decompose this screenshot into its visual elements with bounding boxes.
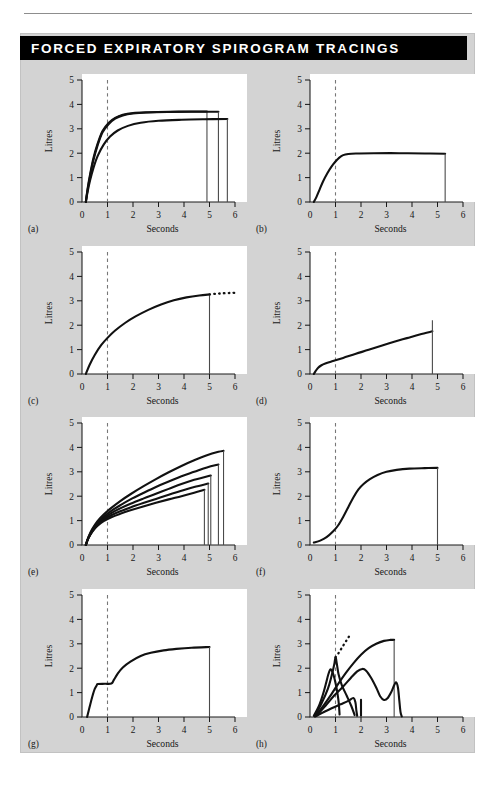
x-tick-label: 0: [80, 553, 85, 563]
x-tick-label: 6: [460, 553, 465, 563]
y-tick-label: 1: [69, 688, 74, 698]
y-tick-label: 5: [297, 418, 302, 428]
spirogram-panel-grid: 0123450123456LitresSeconds(a)01234501234…: [20, 66, 475, 752]
plot-background: [82, 246, 247, 374]
y-tick-label: 0: [297, 540, 302, 550]
x-tick-label: 3: [384, 382, 389, 392]
panel-letter: (c): [28, 396, 38, 407]
y-tick-label: 3: [297, 639, 302, 649]
y-axis-title: Litres: [271, 473, 282, 496]
y-axis-title: Litres: [43, 644, 54, 667]
y-tick-label: 1: [69, 516, 74, 526]
plot-background: [82, 417, 247, 545]
y-tick-label: 2: [297, 320, 302, 330]
x-tick-label: 4: [182, 210, 187, 220]
x-tick-label: 4: [409, 553, 414, 563]
x-tick-label: 4: [182, 553, 187, 563]
y-tick-label: 4: [69, 614, 74, 624]
spirogram-panel-b: 0123450123456LitresSeconds(b): [248, 66, 476, 238]
y-tick-label: 5: [69, 590, 74, 600]
x-tick-label: 2: [358, 725, 363, 735]
x-tick-label: 1: [105, 553, 110, 563]
y-tick-label: 2: [69, 320, 74, 330]
x-tick-label: 6: [233, 553, 238, 563]
y-tick-label: 3: [69, 124, 74, 134]
x-tick-label: 4: [409, 382, 414, 392]
x-tick-label: 0: [80, 210, 85, 220]
y-axis-title: Litres: [271, 301, 282, 324]
x-tick-label: 0: [307, 382, 312, 392]
x-tick-label: 2: [131, 210, 136, 220]
x-axis-title: Seconds: [374, 395, 406, 406]
plot-background: [310, 589, 475, 717]
x-tick-label: 0: [307, 553, 312, 563]
y-tick-label: 3: [297, 296, 302, 306]
x-tick-label: 1: [333, 382, 338, 392]
y-tick-label: 0: [297, 197, 302, 207]
x-axis-title: Seconds: [147, 223, 179, 234]
x-tick-label: 6: [233, 382, 238, 392]
spirogram-panel-c: 0123450123456LitresSeconds(c): [20, 238, 248, 410]
x-tick-label: 2: [131, 725, 136, 735]
spirogram-panel-g: 0123450123456LitresSeconds(g): [20, 581, 248, 753]
x-tick-label: 3: [156, 553, 161, 563]
x-axis-title: Seconds: [147, 566, 179, 577]
x-tick-label: 5: [207, 553, 212, 563]
y-axis-title: Litres: [43, 130, 54, 153]
y-tick-label: 2: [69, 149, 74, 159]
y-tick-label: 1: [297, 688, 302, 698]
panel-letter: (d): [256, 396, 267, 407]
y-tick-label: 1: [69, 345, 74, 355]
spirogram-panel-f: 0123450123456LitresSeconds(f): [248, 409, 476, 581]
x-tick-label: 4: [182, 382, 187, 392]
spirogram-panel-h: 0123450123456LitresSeconds(h): [248, 581, 476, 753]
x-tick-label: 5: [435, 210, 440, 220]
x-tick-label: 0: [80, 382, 85, 392]
x-tick-label: 4: [409, 210, 414, 220]
x-tick-label: 2: [131, 382, 136, 392]
x-tick-label: 3: [384, 210, 389, 220]
y-tick-label: 1: [297, 173, 302, 183]
panel-letter: (b): [256, 224, 267, 235]
x-tick-label: 3: [156, 382, 161, 392]
page-top-rule: [24, 13, 472, 14]
page-title: FORCED EXPIRATORY SPIROGRAM TRACINGS: [31, 41, 400, 56]
x-tick-label: 6: [460, 210, 465, 220]
y-tick-label: 2: [69, 663, 74, 673]
x-tick-label: 4: [182, 725, 187, 735]
y-tick-label: 0: [297, 712, 302, 722]
x-tick-label: 4: [409, 725, 414, 735]
x-tick-label: 1: [105, 725, 110, 735]
x-axis-title: Seconds: [147, 395, 179, 406]
plot-background: [310, 417, 475, 545]
x-tick-label: 1: [105, 210, 110, 220]
x-tick-label: 5: [435, 553, 440, 563]
x-tick-label: 2: [358, 382, 363, 392]
x-axis-title: Seconds: [374, 738, 406, 749]
y-tick-label: 3: [69, 639, 74, 649]
x-tick-label: 5: [207, 210, 212, 220]
x-tick-label: 1: [333, 210, 338, 220]
x-tick-label: 2: [358, 553, 363, 563]
y-tick-label: 4: [297, 271, 302, 281]
x-tick-label: 5: [435, 382, 440, 392]
x-tick-label: 3: [156, 210, 161, 220]
y-tick-label: 5: [69, 75, 74, 85]
figure-title-banner: FORCED EXPIRATORY SPIROGRAM TRACINGS: [20, 36, 467, 60]
x-tick-label: 6: [460, 725, 465, 735]
x-tick-label: 1: [105, 382, 110, 392]
y-tick-label: 5: [69, 247, 74, 257]
panel-letter: (e): [28, 567, 38, 578]
y-axis-title: Litres: [43, 301, 54, 324]
y-tick-label: 3: [69, 296, 74, 306]
x-tick-label: 6: [233, 210, 238, 220]
y-tick-label: 1: [69, 173, 74, 183]
y-tick-label: 4: [297, 614, 302, 624]
y-tick-label: 5: [297, 75, 302, 85]
y-tick-label: 5: [297, 247, 302, 257]
panel-letter: (f): [256, 567, 265, 578]
x-tick-label: 6: [233, 725, 238, 735]
x-tick-label: 5: [207, 382, 212, 392]
y-tick-label: 4: [297, 443, 302, 453]
y-tick-label: 2: [297, 663, 302, 673]
